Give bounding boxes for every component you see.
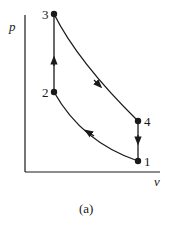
state-point-4 [135, 118, 141, 124]
state-label-3: 3 [42, 7, 49, 22]
y-axis-label: p [8, 19, 16, 34]
process-3-4 [54, 14, 138, 121]
state-point-3 [51, 11, 57, 17]
arrow-3-4 [94, 80, 99, 85]
figure-caption: (a) [79, 201, 93, 216]
x-axis-label: v [154, 174, 160, 189]
state-label-4: 4 [144, 114, 151, 129]
state-point-1 [135, 158, 141, 164]
pv-diagram: 3 2 4 1 p v (a) [0, 0, 172, 225]
process-1-2 [54, 92, 138, 161]
state-point-2 [51, 89, 57, 95]
state-label-1: 1 [144, 154, 151, 169]
state-label-2: 2 [42, 85, 49, 100]
